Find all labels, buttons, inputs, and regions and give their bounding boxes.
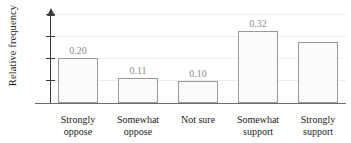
x-category-line-2: support	[224, 126, 292, 138]
x-category-label-somewhat-support: Somewhat support	[224, 114, 292, 137]
y-tick-mark-0.40	[46, 14, 55, 15]
x-category-line-1: Somewhat	[224, 114, 292, 126]
y-tick-mark-0.20	[46, 58, 55, 59]
plot-area: 0.40 0.30 0.20 0.10 0.20 0.11 0.10 0.32 …	[50, 8, 346, 103]
bar-strongly-oppose	[58, 58, 98, 103]
bar-somewhat-support	[238, 31, 278, 103]
bar-not-sure	[178, 81, 218, 104]
x-category-line-1: Not sure	[166, 114, 230, 126]
x-category-label-not-sure: Not sure	[166, 114, 230, 126]
y-tick-mark-0.10	[46, 80, 55, 81]
bar-value-somewhat-support: 0.32	[238, 19, 278, 29]
x-category-line-2: oppose	[104, 126, 172, 138]
bar-value-somewhat-oppose: 0.11	[118, 66, 158, 76]
x-category-label-strongly-support: Strongly support	[286, 114, 350, 137]
x-category-label-somewhat-oppose: Somewhat oppose	[104, 114, 172, 137]
bar-strongly-support	[298, 42, 338, 103]
x-axis-line	[35, 103, 346, 104]
y-axis-title: Relative frequency	[7, 0, 18, 95]
x-category-line-1: Strongly	[46, 114, 110, 126]
relative-frequency-bar-chart: Relative frequency 0.40 0.30 0.20 0.10 0…	[0, 0, 351, 143]
bar-value-strongly-oppose: 0.20	[58, 46, 98, 56]
x-category-line-1: Strongly	[286, 114, 350, 126]
x-category-label-strongly-oppose: Strongly oppose	[46, 114, 110, 137]
bar-somewhat-oppose	[118, 78, 158, 103]
gridline-0.30	[50, 36, 346, 37]
gridline-0.40	[50, 14, 346, 15]
y-tick-mark-0.30	[46, 36, 55, 37]
bar-value-not-sure: 0.10	[178, 69, 218, 79]
x-category-line-1: Somewhat	[104, 114, 172, 126]
x-category-line-2: support	[286, 126, 350, 138]
x-category-line-2: oppose	[46, 126, 110, 138]
